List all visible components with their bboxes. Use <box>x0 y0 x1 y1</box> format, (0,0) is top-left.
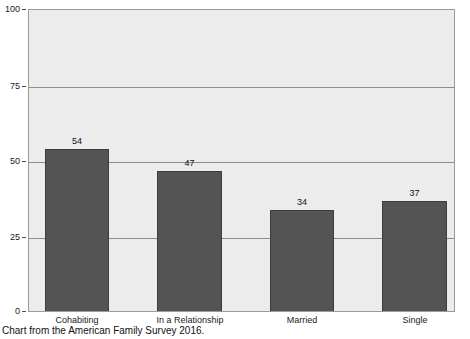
y-tick-mark-0 <box>22 311 26 312</box>
y-tick-mark-50 <box>22 161 26 162</box>
plot-area <box>28 9 455 312</box>
y-tick-label-75: 75 <box>10 82 20 91</box>
bar-value-single: 37 <box>382 189 447 198</box>
bar-value-married: 34 <box>270 198 334 207</box>
bar-cohabiting[interactable] <box>45 149 109 312</box>
y-axis: 100 75 50 25 0 <box>0 0 26 339</box>
bar-value-cohabiting: 54 <box>45 137 109 146</box>
y-tick-label-25: 25 <box>10 233 20 242</box>
x-tick-label-married: Married <box>262 315 342 325</box>
y-tick-mark-75 <box>22 86 26 87</box>
y-tick-mark-25 <box>22 237 26 238</box>
y-tick-label-0: 0 <box>15 307 20 316</box>
y-tick-label-50: 50 <box>10 157 20 166</box>
x-tick-label-single: Single <box>375 315 455 325</box>
bar-married[interactable] <box>270 210 334 312</box>
x-tick-label-in-a-relationship: In a Relationship <box>135 315 245 325</box>
gridline-75 <box>29 87 454 88</box>
bar-value-in-a-relationship: 47 <box>157 159 222 168</box>
bar-single[interactable] <box>382 201 447 312</box>
x-tick-label-cohabiting: Cohabiting <box>37 315 117 325</box>
y-tick-label-100: 100 <box>5 5 20 14</box>
bar-in-a-relationship[interactable] <box>157 171 222 312</box>
y-tick-mark-100 <box>22 9 26 10</box>
bar-chart-figure: 100 75 50 25 0 54 47 34 37 Cohabiting In… <box>0 0 470 339</box>
chart-caption: Chart from the American Family Survey 20… <box>2 325 204 337</box>
